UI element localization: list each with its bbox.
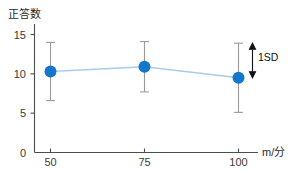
x-tick-label: 100 [229,156,247,168]
y-tick-label: 15 [14,29,26,41]
error-bars [46,42,243,113]
sd-annotation: 1SD [250,43,279,78]
sd-arrow-head-up [250,43,256,49]
line-chart: 正答数 15 10 5 0 50 75 100 m/分 [0,0,289,171]
data-point[interactable] [233,72,245,84]
x-axis-ticks: 50 75 100 [44,149,247,169]
sd-arrow-head-down [250,72,256,78]
data-point[interactable] [45,65,57,77]
y-tick-label: 0 [20,147,26,159]
y-axis-ticks: 15 10 5 0 [14,29,35,159]
x-axis-title: m/分 [262,146,285,158]
chart-container: 正答数 15 10 5 0 50 75 100 m/分 [0,0,289,171]
y-axis-title: 正答数 [8,7,41,20]
sd-annotation-label: 1SD [258,51,279,63]
y-tick-label: 5 [20,107,26,119]
y-tick-label: 10 [14,68,26,80]
x-tick-label: 75 [138,156,150,168]
data-point[interactable] [139,61,151,73]
x-tick-label: 50 [44,156,56,168]
